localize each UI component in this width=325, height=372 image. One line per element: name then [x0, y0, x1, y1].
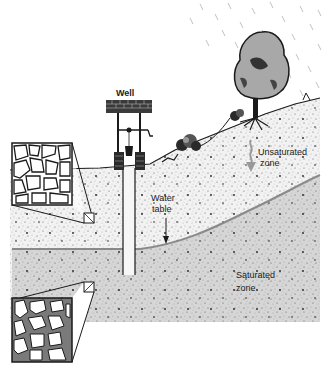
saturated-zone-label-1: Saturated [236, 270, 275, 280]
unsaturated-zone-label-1: Unsaturated [258, 147, 307, 157]
unsaturated-zone-label-2: zone [260, 158, 280, 168]
diagram-scene [0, 0, 325, 372]
saturated-zone-label-2: zone [236, 283, 256, 293]
water-table-label-1: Water [151, 193, 175, 203]
water-table-label-2: table [152, 204, 172, 214]
well-label: Well [116, 88, 134, 98]
groundwater-diagram: Well Unsaturated zone Water table Satura… [0, 0, 325, 372]
